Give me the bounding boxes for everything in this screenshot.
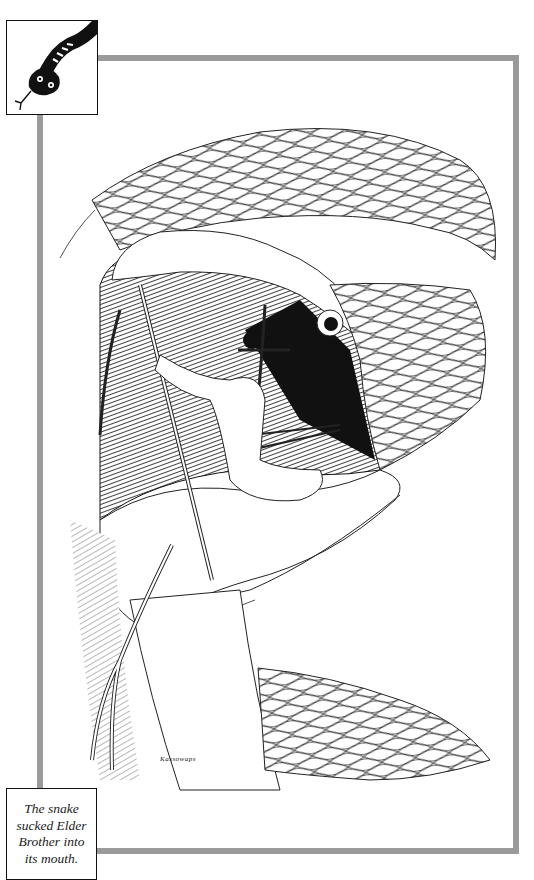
corner-icon-box bbox=[6, 20, 98, 115]
caption-line: sucked Elder bbox=[11, 818, 92, 835]
lower-body-coil bbox=[258, 668, 490, 780]
snake-neck bbox=[130, 590, 280, 790]
caption-line: its mouth. bbox=[11, 851, 92, 868]
caption-box: The snake sucked Elder Brother into its … bbox=[6, 788, 97, 880]
caption-text: The snake sucked Elder Brother into its … bbox=[7, 801, 96, 867]
snake-icon bbox=[7, 21, 97, 113]
caption-line: Brother into bbox=[11, 834, 92, 851]
artist-signature: Kassowaps bbox=[160, 755, 196, 763]
caption-line: The snake bbox=[11, 801, 92, 818]
